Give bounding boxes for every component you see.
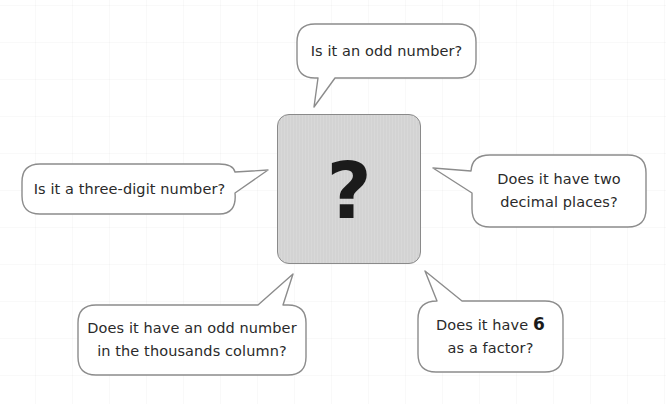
question-factor-line2: as a factor? [448, 337, 534, 360]
bubble-text-bottom-left: Does it have an odd number in the thousa… [78, 305, 306, 375]
question-thousands-line2: in the thousands column? [97, 340, 287, 363]
bubble-text-left: Is it a three-digit number? [22, 164, 237, 214]
question-decimal-line1: Does it have two [497, 168, 621, 191]
question-mark-icon: ? [326, 152, 371, 230]
question-thousands-line1: Does it have an odd number [87, 317, 296, 340]
question-three-digit: Is it a three-digit number? [34, 178, 226, 201]
bubble-text-top: Is it an odd number? [297, 24, 476, 78]
mystery-number-card: ? [277, 114, 421, 264]
bubble-text-bottom-right: Does it have 6 as a factor? [418, 301, 563, 372]
question-factor-prefix: Does it have [436, 317, 533, 333]
question-odd-number: Is it an odd number? [311, 40, 463, 63]
bubble-text-right: Does it have two decimal places? [472, 155, 646, 227]
question-decimal-line2: decimal places? [500, 191, 618, 214]
question-factor-line1: Does it have 6 [436, 313, 545, 337]
factor-value: 6 [533, 314, 545, 334]
